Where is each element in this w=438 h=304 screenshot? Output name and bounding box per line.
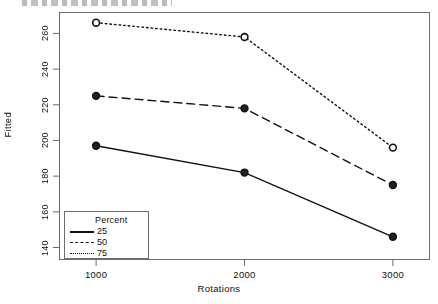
legend-item[interactable]: 75	[65, 248, 148, 259]
y-tick-label: 200	[40, 126, 50, 154]
x-tick-label: 3000	[368, 269, 418, 280]
legend-item[interactable]: 25	[65, 226, 148, 237]
legend: Percent 255075	[64, 211, 149, 259]
legend-item[interactable]: 50	[65, 237, 148, 248]
legend-line-swatch	[70, 231, 94, 233]
y-tick-label: 140	[40, 234, 50, 262]
y-axis-title: Fitted	[2, 112, 13, 138]
legend-title: Percent	[95, 215, 127, 225]
legend-label: 25	[97, 226, 107, 236]
y-tick-label: 260	[40, 19, 50, 47]
legend-label: 75	[97, 248, 107, 258]
legend-line-swatch	[70, 253, 94, 254]
x-tick-label: 1000	[71, 269, 121, 280]
x-axis-title: Rotations	[0, 283, 438, 294]
legend-line-swatch	[70, 242, 94, 243]
chart-root: Fitted Rotations 140160180200220240260 1…	[0, 0, 438, 304]
x-tick-label: 2000	[220, 269, 270, 280]
legend-label: 50	[97, 237, 107, 247]
y-tick-label: 180	[40, 162, 50, 190]
y-tick-label: 220	[40, 91, 50, 119]
y-tick-label: 240	[40, 55, 50, 83]
y-tick-label: 160	[40, 198, 50, 226]
